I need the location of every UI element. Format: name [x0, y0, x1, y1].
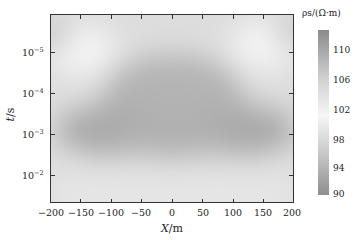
colorbar-title: ρs/(Ω·m)	[302, 8, 341, 18]
y-tick	[51, 134, 55, 135]
colorbar-label: 110	[333, 45, 350, 55]
x-tick-label: −50	[131, 207, 151, 218]
x-tick	[233, 199, 234, 203]
x-axis-title: X/m	[161, 222, 183, 235]
x-tick	[172, 15, 173, 19]
y-tick	[289, 93, 293, 94]
y-tick	[289, 175, 293, 176]
heatmap-plot-area	[50, 14, 294, 203]
y-tick	[289, 134, 293, 135]
y-tick	[51, 52, 55, 53]
x-tick-label: 200	[283, 207, 301, 218]
x-tick	[111, 15, 112, 19]
x-tick	[263, 15, 264, 19]
x-tick-label: −200	[38, 207, 64, 218]
y-tick-label: 10−3	[22, 128, 44, 140]
colorbar	[318, 30, 329, 195]
colorbar-label: 106	[333, 75, 350, 85]
y-tick	[51, 175, 55, 176]
x-tick-label: −100	[98, 207, 124, 218]
x-tick	[80, 15, 81, 19]
x-tick	[141, 199, 142, 203]
x-tick	[233, 15, 234, 19]
x-tick-label: 50	[197, 207, 209, 218]
y-tick-label: 10−4	[22, 87, 44, 99]
colorbar-label: 98	[333, 135, 344, 145]
x-tick	[202, 15, 203, 19]
x-tick	[111, 199, 112, 203]
colorbar-label: 94	[333, 163, 344, 173]
x-tick-label: 150	[254, 207, 272, 218]
colorbar-label: 90	[333, 189, 344, 199]
x-tick-label: 0	[169, 207, 175, 218]
y-tick-label: 10−5	[22, 46, 44, 58]
y-tick-label: 10−2	[22, 169, 44, 181]
x-tick	[202, 199, 203, 203]
x-tick	[141, 15, 142, 19]
y-tick	[51, 93, 55, 94]
y-axis-title: t/s	[4, 108, 17, 122]
heatmap-image	[51, 15, 294, 203]
x-tick	[80, 199, 81, 203]
x-tick-label: 100	[224, 207, 242, 218]
colorbar-label: 102	[333, 105, 350, 115]
x-tick	[172, 199, 173, 203]
x-tick-label: −150	[68, 207, 94, 218]
x-tick	[263, 199, 264, 203]
y-tick	[289, 52, 293, 53]
